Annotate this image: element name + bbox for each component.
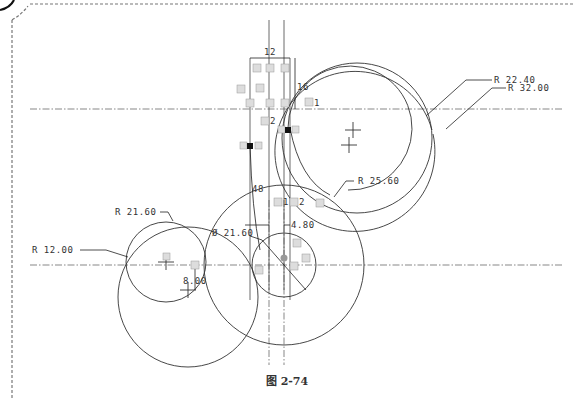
leader-r32 [446, 88, 506, 129]
dim-48-label[interactable]: 48 [252, 184, 264, 194]
arc-r32-outer[interactable] [275, 71, 435, 231]
constraint-icon[interactable] [316, 199, 324, 207]
leader-r22 [426, 80, 492, 116]
perpendicular-icon[interactable] [274, 198, 282, 206]
dim-r21-label[interactable]: R 21.60 [115, 207, 156, 217]
leader-r25 [334, 181, 354, 197]
constraint-icon[interactable] [290, 262, 298, 270]
constraint-icon[interactable] [292, 126, 299, 133]
cad-sketch: 12 16 48 4.80 Ø 21.60 8.00 R 22.40 R 32.… [0, 0, 574, 398]
constraint-icon[interactable] [240, 142, 247, 149]
constraint-icon[interactable] [266, 99, 274, 107]
constraint-icon[interactable] [281, 99, 289, 107]
dim-r12-label[interactable]: R 12.00 [32, 245, 73, 255]
sketch-frame-corner [12, 6, 28, 20]
frame-corner-arc [0, 0, 14, 10]
constraint-perp1b-label: 1 [283, 197, 289, 207]
endpoint-marker[interactable] [285, 127, 291, 133]
dim-4-80-label[interactable]: 4.80 [291, 220, 315, 230]
dim-16-label[interactable]: 16 [297, 82, 309, 92]
constraint-perp2-label: 2 [270, 116, 276, 126]
endpoint-marker[interactable] [247, 143, 253, 149]
constraint-icon[interactable] [246, 99, 254, 107]
tangent-arc-right [290, 128, 330, 195]
perpendicular-icon[interactable] [290, 198, 298, 206]
dim-r25-label[interactable]: R 25.60 [358, 176, 399, 186]
dim-8-label[interactable]: 8.00 [183, 276, 207, 286]
constraint-icon[interactable] [237, 85, 245, 93]
constraint-perp1-label: 1 [314, 98, 320, 108]
figure-caption: 图 2-74 [0, 372, 574, 388]
dim-dia21-label[interactable]: Ø 21.60 [212, 228, 253, 238]
constraint-icon[interactable] [253, 64, 261, 72]
constraint-icon[interactable] [256, 84, 264, 92]
constraint-icon[interactable] [191, 261, 199, 269]
constraint-icon[interactable] [281, 64, 289, 72]
constraint-icon[interactable] [255, 266, 263, 274]
perpendicular-icon[interactable] [261, 117, 269, 125]
center-point-marker[interactable] [281, 255, 288, 262]
constraint-perp2b-label: 2 [299, 197, 305, 207]
constraint-icon[interactable] [266, 64, 274, 72]
constraint-icon[interactable] [163, 253, 170, 260]
dim-r32-label[interactable]: R 32.00 [508, 83, 549, 93]
perpendicular-icon[interactable] [305, 98, 313, 106]
leader-r12 [80, 250, 128, 257]
leader-r21 [160, 212, 173, 221]
constraint-icon[interactable] [278, 126, 285, 133]
equal-icon[interactable] [302, 254, 310, 262]
constraint-icon[interactable] [293, 239, 301, 247]
constraint-icon[interactable] [255, 142, 262, 149]
dim-12-label[interactable]: 12 [264, 47, 276, 57]
